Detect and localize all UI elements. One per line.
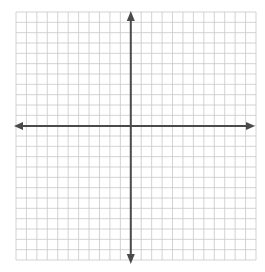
y-axis-down-arrow-icon [127, 254, 135, 264]
grid [16, 12, 256, 260]
x-axis-right-arrow-icon [246, 122, 255, 130]
x-axis-left-arrow-icon [14, 122, 23, 130]
y-axis-up-arrow-icon [127, 11, 135, 21]
axes [14, 11, 255, 264]
coordinate-plane [0, 0, 265, 272]
